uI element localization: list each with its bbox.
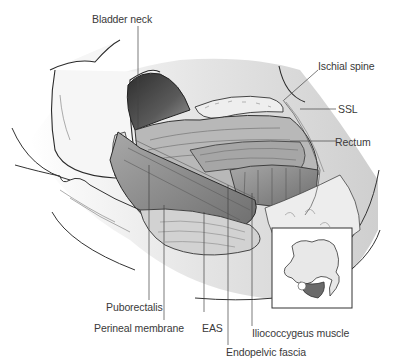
label-ischial-spine: Ischial spine [318, 60, 374, 72]
label-bladder-neck: Bladder neck [92, 13, 152, 25]
pelvic-floor-illustration [0, 0, 396, 364]
label-puborectalis: Puborectalis [106, 301, 163, 313]
label-eas: EAS [202, 322, 223, 334]
label-perineal-membrane: Perineal membrane [94, 322, 184, 334]
label-rectum: Rectum [335, 136, 371, 148]
label-ssl: SSL [338, 103, 358, 115]
label-iliococcygeus-muscle: Iliococcygeus muscle [252, 327, 349, 339]
label-endopelvic-fascia: Endopelvic fascia [226, 346, 306, 358]
pelvis-orientation-inset [272, 228, 352, 308]
